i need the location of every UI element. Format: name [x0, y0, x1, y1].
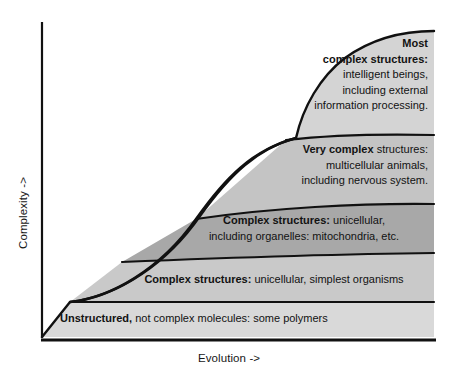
band-label-line: multicellular animals, — [222, 158, 428, 174]
band-label-line: Unstructured, not complex molecules: som… — [60, 311, 360, 327]
band-label-complex-structures-organelles: Complex structures: unicellular, includi… — [180, 213, 428, 244]
complexity-evolution-diagram: Most complex structures: intelligent bei… — [0, 0, 458, 377]
band-label-emphasis: Complex structures: — [144, 273, 251, 285]
band-label-very-complex-structures: Very complex structures: multicellular a… — [222, 142, 428, 189]
band-label-emphasis: Very complex — [303, 143, 374, 155]
band-label-tail: unicellular, simplest organisms — [251, 273, 403, 285]
band-label-emphasis: Unstructured, — [60, 312, 132, 324]
band-label-line: Complex structures: unicellular, simples… — [120, 272, 428, 288]
band-label-line: Most — [280, 36, 428, 52]
band-label-complex-structures-simplest: Complex structures: unicellular, simples… — [120, 272, 428, 288]
band-label-line: Very complex structures: — [222, 142, 428, 158]
band-label-line: complex structures: — [280, 52, 428, 68]
band-label-unstructured: Unstructured, not complex molecules: som… — [60, 311, 360, 327]
band-label-line: Complex structures: unicellular, — [180, 213, 428, 229]
band-label-emphasis: Complex structures: — [223, 214, 330, 226]
band-label-tail: not complex molecules: some polymers — [132, 312, 328, 324]
band-label-line: intelligent beings, — [280, 67, 428, 83]
band-label-line: including nervous system. — [222, 173, 428, 189]
band-label-line: including external — [280, 83, 428, 99]
x-axis-label: Evolution -> — [0, 352, 458, 364]
band-label-tail: unicellular, — [330, 214, 385, 226]
y-axis-label: Complexity -> — [17, 163, 29, 263]
band-label-line: including organelles: mitochondria, etc. — [180, 229, 428, 245]
band-label-most-complex-structures: Most complex structures: intelligent bei… — [280, 36, 428, 114]
band-label-line: information processing. — [280, 98, 428, 114]
band-label-tail: structures: — [374, 143, 428, 155]
